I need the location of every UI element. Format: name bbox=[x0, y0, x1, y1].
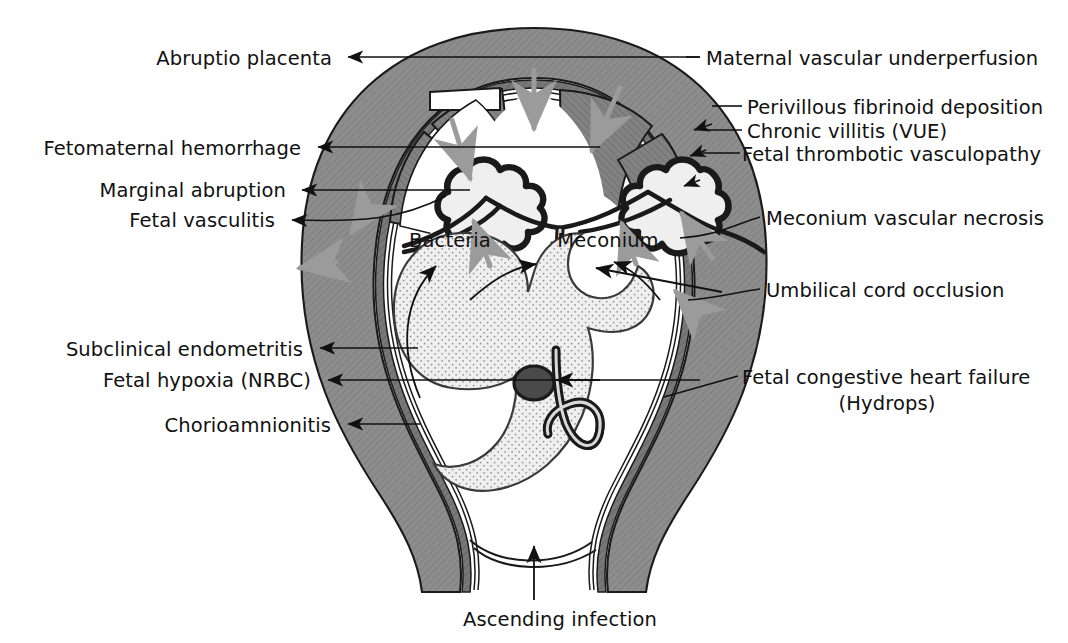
cervix bbox=[470, 540, 596, 567]
label-meconium[interactable]: Meconium bbox=[528, 229, 688, 253]
label-subclinical-endometritis[interactable]: Subclinical endometritis bbox=[0, 338, 303, 362]
label-meconium-vascular-necrosis[interactable]: Meconium vascular necrosis bbox=[766, 207, 1044, 231]
label-fetal-congestive-heart-failure-hydrops[interactable]: (Hydrops) bbox=[742, 392, 1032, 416]
label-chorioamnionitis[interactable]: Chorioamnionitis bbox=[0, 414, 331, 438]
label-bacteria[interactable]: Bacteria bbox=[370, 229, 530, 253]
label-maternal-vascular-underperfusion[interactable]: Maternal vascular underperfusion bbox=[706, 47, 1038, 71]
label-ascending-infection[interactable]: Ascending infection bbox=[400, 608, 720, 632]
label-abruptio-placenta[interactable]: Abruptio placenta bbox=[0, 47, 332, 71]
label-umbilical-cord-occlusion[interactable]: Umbilical cord occlusion bbox=[766, 279, 1005, 303]
diagram-canvas: Abruptio placenta Fetomaternal hemorrhag… bbox=[0, 0, 1068, 643]
label-fetal-vasculitis[interactable]: Fetal vasculitis bbox=[0, 209, 275, 233]
label-fetomaternal-hemorrhage[interactable]: Fetomaternal hemorrhage bbox=[0, 137, 301, 161]
label-chronic-villitis-vue[interactable]: Chronic villitis (VUE) bbox=[747, 120, 947, 144]
label-fetal-congestive-heart-failure[interactable]: Fetal congestive heart failure bbox=[742, 366, 1030, 390]
label-fetal-hypoxia-nrbc[interactable]: Fetal hypoxia (NRBC) bbox=[0, 369, 311, 393]
label-perivillous-fibrinoid-deposition[interactable]: Perivillous fibrinoid deposition bbox=[747, 96, 1043, 120]
label-fetal-thrombotic-vasculopathy[interactable]: Fetal thrombotic vasculopathy bbox=[742, 143, 1041, 167]
label-marginal-abruption[interactable]: Marginal abruption bbox=[0, 179, 286, 203]
fetal-heart bbox=[514, 366, 554, 400]
